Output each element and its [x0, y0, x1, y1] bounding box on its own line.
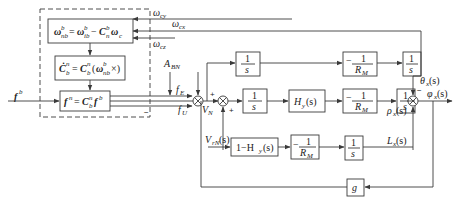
- svg-text:1−H: 1−H: [236, 142, 254, 153]
- svg-text:−: −: [346, 92, 352, 103]
- svg-text:s: s: [245, 64, 249, 75]
- theta-label: θ: [420, 75, 425, 86]
- svg-text:1: 1: [409, 53, 414, 64]
- svg-text:M: M: [361, 69, 369, 77]
- svg-text:s: s: [351, 148, 355, 159]
- dcm-rate-block: Ċ n b = C n b ( ω b nb ×): [55, 56, 125, 80]
- fE-sub: E: [179, 89, 185, 97]
- svg-text:ω: ω: [111, 26, 118, 37]
- svg-text:=: =: [69, 26, 75, 37]
- rho-label: ρ: [386, 105, 392, 116]
- svg-text:b: b: [87, 69, 91, 77]
- svg-text:n: n: [89, 94, 93, 102]
- neg-inv-RM-bottom: − 1 R M: [291, 135, 319, 160]
- L-label: L: [386, 135, 393, 146]
- minus-sign-sum3: −: [417, 86, 422, 95]
- minus-sign: −: [144, 108, 149, 117]
- svg-text:b: b: [103, 60, 107, 68]
- omega-cx-sub: cx: [179, 23, 186, 31]
- neg-inv-RM-top: − 1 R M: [343, 52, 377, 77]
- svg-text:(s): (s): [306, 96, 317, 108]
- svg-text:M: M: [361, 106, 369, 114]
- svg-text:R: R: [354, 64, 361, 75]
- block-diagram: ω b nb = ω b ib − C b n ω c Ċ n b = C n …: [0, 0, 455, 203]
- A-BN-label: A: [163, 58, 171, 69]
- svg-text:−: −: [293, 139, 299, 150]
- A-BN-sub: BN: [171, 63, 180, 71]
- specific-force-transform-block: f n = C n b f b: [60, 91, 110, 111]
- integrator-mid: 1 s: [243, 89, 267, 113]
- svg-text:b: b: [89, 102, 93, 110]
- integrator-bottom: 1 s: [345, 136, 363, 160]
- svg-text:1: 1: [351, 137, 356, 148]
- svg-text:C: C: [80, 63, 87, 74]
- input-fb-sup: b: [19, 88, 23, 96]
- svg-text:1: 1: [306, 136, 311, 147]
- svg-text:(s): (s): [263, 142, 274, 154]
- svg-text:−: −: [91, 26, 97, 37]
- svg-text:1: 1: [403, 90, 408, 101]
- svg-text:C: C: [82, 96, 89, 107]
- svg-text:b: b: [84, 24, 88, 32]
- svg-text:R: R: [299, 147, 306, 158]
- svg-text:b: b: [106, 24, 110, 32]
- integrator-top: 1 s: [236, 52, 260, 76]
- phi-label: φ: [427, 88, 433, 99]
- omega-cx-label: ω: [172, 18, 179, 29]
- svg-text:=: =: [72, 63, 78, 74]
- svg-text:=: =: [74, 96, 80, 107]
- svg-text:M: M: [306, 152, 314, 160]
- integrator-top-right: 1 s: [403, 52, 421, 76]
- omega-cz-label: ω: [153, 38, 160, 49]
- gain-g-block: g: [347, 179, 364, 196]
- svg-text:n: n: [69, 94, 73, 102]
- L-arg: (s): [396, 135, 407, 147]
- hy-filter-block: H y (s): [289, 90, 325, 112]
- theta-arg: (s): [429, 75, 440, 87]
- svg-text:1: 1: [361, 53, 366, 64]
- angular-rate-block: ω b nb = ω b ib − C b n ω c: [48, 19, 133, 43]
- rho-arg: (s): [396, 105, 407, 117]
- one-minus-hy-block: 1−H y (s): [231, 138, 278, 156]
- svg-text:Ċ: Ċ: [59, 62, 66, 74]
- svg-text:R: R: [354, 101, 361, 112]
- omega-cy-sub: cy: [160, 12, 167, 20]
- plus-sign-bottom: +: [229, 106, 234, 115]
- svg-text:n: n: [106, 32, 110, 40]
- svg-text:nb: nb: [61, 32, 69, 40]
- fU-sub: U: [182, 109, 188, 117]
- VrN-arg: (s): [219, 134, 230, 146]
- svg-text:H: H: [293, 96, 302, 107]
- svg-text:s: s: [409, 64, 413, 75]
- svg-text:C: C: [99, 26, 106, 37]
- svg-text:b: b: [61, 24, 65, 32]
- omega-cz-sub: cz: [160, 43, 166, 51]
- svg-text:b: b: [66, 69, 70, 77]
- sum-junction-2: [218, 96, 228, 106]
- svg-text:1: 1: [252, 90, 257, 101]
- phi-arg: (s): [437, 88, 448, 100]
- svg-text:g: g: [352, 182, 357, 193]
- neg-inv-RM-mid: − 1 R M: [343, 89, 377, 114]
- svg-text:nb: nb: [103, 69, 111, 77]
- omega-cy-label: ω: [153, 7, 160, 18]
- svg-text:ib: ib: [84, 32, 90, 40]
- VN-sub: N: [207, 109, 213, 117]
- svg-text:1: 1: [361, 90, 366, 101]
- svg-text:s: s: [252, 101, 256, 112]
- svg-text:−: −: [346, 55, 352, 66]
- svg-text:×): ×): [111, 63, 120, 75]
- svg-text:n: n: [87, 60, 91, 68]
- svg-text:b: b: [99, 94, 103, 102]
- svg-text:n: n: [66, 60, 70, 68]
- svg-text:1: 1: [245, 53, 250, 64]
- plus-sign: +: [210, 90, 215, 99]
